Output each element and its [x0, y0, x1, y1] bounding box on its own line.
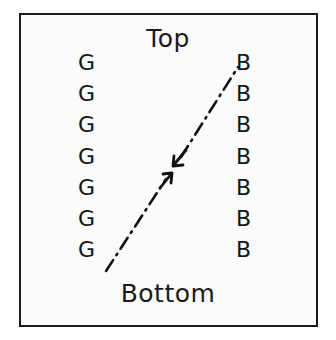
top-label: Top: [0, 26, 336, 51]
right-column-b: B B B B B B B: [236, 52, 270, 270]
marker-b: B: [236, 52, 270, 83]
marker-b: B: [236, 239, 270, 270]
bottom-label: Bottom: [0, 281, 336, 306]
marker-b: B: [236, 83, 270, 114]
marker-b: B: [236, 177, 270, 208]
marker-b: B: [236, 114, 270, 145]
marker-g: G: [78, 114, 112, 145]
marker-b: B: [236, 208, 270, 239]
diagram-canvas: Top Bottom G G G G G G G B B B B B B B: [0, 0, 336, 340]
marker-g: G: [78, 208, 112, 239]
marker-g: G: [78, 239, 112, 270]
marker-g: G: [78, 52, 112, 83]
marker-g: G: [78, 146, 112, 177]
marker-g: G: [78, 177, 112, 208]
marker-b: B: [236, 146, 270, 177]
left-column-g: G G G G G G G: [78, 52, 112, 270]
marker-g: G: [78, 83, 112, 114]
